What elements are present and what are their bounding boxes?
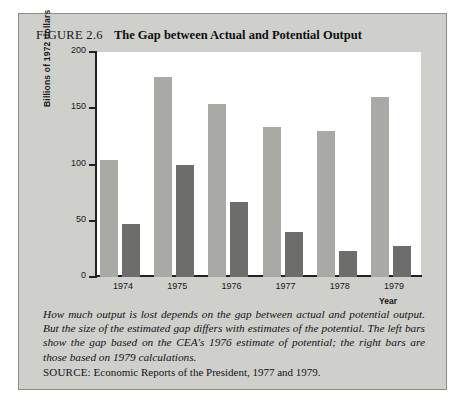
- bar-1974-right: [122, 224, 140, 277]
- figure-title: The Gap between Actual and Potential Out…: [114, 28, 362, 42]
- source-text: Economic Reports of the President, 1977 …: [94, 366, 321, 378]
- bar-1979-right: [393, 246, 411, 278]
- figure-card: FIGURE 2.6The Gap between Actual and Pot…: [18, 13, 447, 390]
- x-tick-label: 1978: [313, 281, 367, 291]
- bar-1975-right: [176, 165, 194, 278]
- x-tick-label: 1975: [150, 281, 204, 291]
- figure-header: FIGURE 2.6The Gap between Actual and Pot…: [36, 25, 436, 43]
- y-tick-label: 200: [46, 45, 86, 55]
- x-tick-label: 1974: [96, 281, 150, 291]
- figure-source: SOURCE: Economic Reports of the Presiden…: [43, 366, 428, 378]
- y-tick-label: 100: [46, 158, 86, 168]
- bar-1977-left: [263, 127, 281, 277]
- chart: Billions of 1972 dollars 050100150200 19…: [46, 47, 431, 302]
- bar-1977-right: [285, 232, 303, 277]
- bar-1976-left: [208, 104, 226, 277]
- y-tick-label: 50: [46, 214, 86, 224]
- x-tick-label: 1977: [259, 281, 313, 291]
- bar-1975-left: [154, 77, 172, 277]
- y-tick-label: 150: [46, 101, 86, 111]
- source-label: SOURCE:: [43, 366, 91, 378]
- bar-1978-right: [339, 251, 357, 277]
- x-tick-label: 1976: [204, 281, 258, 291]
- bar-1974-left: [100, 160, 118, 277]
- bar-series-container: [96, 52, 421, 277]
- figure-caption: How much output is lost depends on the g…: [43, 307, 425, 364]
- x-tick-label: 1979: [367, 281, 421, 291]
- y-tick-label: 0: [46, 270, 86, 280]
- x-axis-label: Year: [379, 296, 397, 306]
- bar-1976-right: [230, 202, 248, 277]
- bar-1979-left: [371, 97, 389, 277]
- bar-1978-left: [317, 131, 335, 277]
